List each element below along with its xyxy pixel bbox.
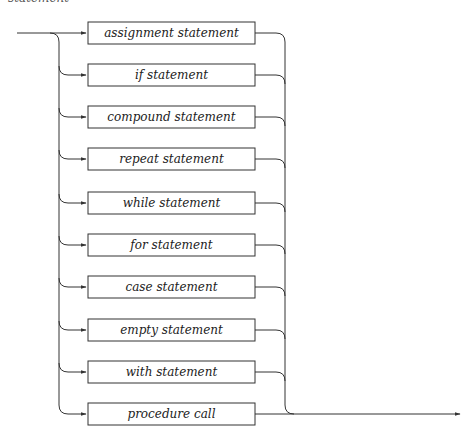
nonterminal-label: while statement (123, 196, 221, 210)
nonterminal-label: if statement (135, 68, 208, 82)
branch-in-arrow (59, 405, 86, 414)
branch-out-line (255, 159, 285, 168)
right-rail (276, 33, 294, 414)
nonterminal-label: empty statement (120, 323, 223, 337)
alternative-row: procedure call (59, 403, 255, 425)
alternative-row: assignment statement (88, 22, 276, 44)
branch-in-arrow (59, 278, 86, 287)
left-rail (50, 33, 59, 405)
nonterminal-label: compound statement (107, 110, 235, 124)
branch-in-arrow (59, 150, 86, 159)
branch-in-arrow (59, 194, 86, 203)
branch-in-arrow (59, 363, 86, 372)
alternative-row: with statement (59, 361, 285, 383)
alternative-row: while statement (59, 192, 285, 214)
alternative-row: compound statement (59, 106, 285, 128)
nonterminal-label: repeat statement (119, 152, 224, 166)
alternative-row: case statement (59, 276, 285, 298)
branch-out-line (255, 203, 285, 212)
nonterminal-label: case statement (125, 280, 217, 294)
branch-out-line (255, 245, 285, 254)
nonterminal-label: procedure call (127, 407, 215, 421)
nonterminal-label: with statement (126, 365, 218, 379)
nonterminal-label: assignment statement (104, 26, 239, 40)
alternative-row: empty statement (59, 319, 285, 341)
branch-in-arrow (59, 321, 86, 330)
alternative-row: if statement (59, 64, 285, 86)
syntax-diagram: assignment statementif statementcompound… (0, 0, 473, 439)
branch-out-line (255, 117, 285, 126)
alternative-row: repeat statement (59, 148, 285, 170)
alternative-row: for statement (59, 234, 285, 256)
branch-out-line (255, 287, 285, 296)
branch-in-arrow (59, 108, 86, 117)
branch-out-line (255, 330, 285, 339)
nonterminal-label: for statement (129, 238, 212, 252)
branch-out-line (255, 372, 285, 381)
branch-in-arrow (59, 236, 86, 245)
branch-in-arrow (59, 66, 86, 75)
branch-out-line (255, 75, 285, 84)
